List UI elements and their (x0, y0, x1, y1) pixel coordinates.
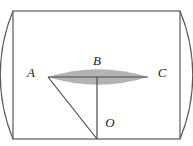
vertex-label-c: C (158, 65, 167, 80)
figure-canvas: A B C O (0, 0, 193, 146)
geometric-figure: A B C O (0, 0, 193, 146)
vertex-label-b: B (93, 53, 101, 68)
arc-left (0, 11, 13, 139)
vertex-label-o: O (105, 115, 115, 130)
vertex-label-a: A (26, 65, 35, 80)
arc-right (180, 11, 193, 139)
segment-AO (48, 77, 97, 139)
